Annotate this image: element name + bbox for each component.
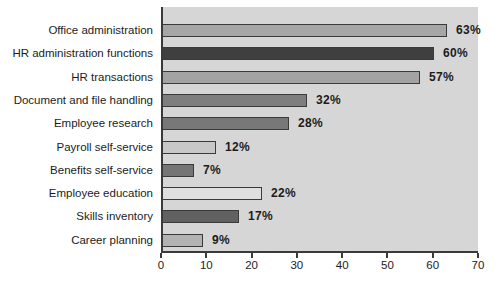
x-axis-tick-label: 60	[426, 259, 439, 271]
x-axis-tick	[341, 253, 343, 258]
bar	[162, 164, 194, 177]
x-axis-tick-label: 0	[158, 259, 164, 271]
x-axis-tick-label: 10	[200, 259, 213, 271]
category-label: Employee education	[0, 186, 153, 201]
bar-chart: Office administration63%HR administratio…	[0, 0, 498, 289]
bar	[162, 47, 434, 60]
value-label: 60%	[443, 46, 468, 61]
bar	[162, 117, 289, 130]
bar	[162, 94, 307, 107]
value-label: 28%	[298, 116, 323, 131]
value-label: 9%	[212, 233, 230, 248]
bar	[162, 234, 203, 247]
bar	[162, 187, 262, 200]
category-label: Employee research	[0, 116, 153, 131]
category-label: Skills inventory	[0, 209, 153, 224]
value-label: 7%	[203, 163, 221, 178]
value-label: 12%	[225, 140, 250, 155]
category-label: Document and file handling	[0, 93, 153, 108]
x-axis-tick	[296, 253, 298, 258]
value-label: 63%	[456, 23, 481, 38]
x-axis-tick	[205, 253, 207, 258]
x-axis-tick-label: 30	[290, 259, 303, 271]
x-axis-tick	[251, 253, 253, 258]
category-label: Payroll self-service	[0, 140, 153, 155]
category-label: Career planning	[0, 233, 153, 248]
value-label: 32%	[316, 93, 341, 108]
x-axis-tick	[432, 253, 434, 258]
x-axis-tick	[386, 253, 388, 258]
x-axis-tick-label: 70	[472, 259, 485, 271]
bar	[162, 24, 447, 37]
category-label: HR transactions	[0, 70, 153, 85]
bar	[162, 71, 420, 84]
x-axis-tick-label: 40	[336, 259, 349, 271]
value-label: 22%	[271, 186, 296, 201]
x-axis-tick-label: 50	[381, 259, 394, 271]
bar	[162, 141, 216, 154]
x-axis-tick	[160, 253, 162, 258]
category-label: Office administration	[0, 23, 153, 38]
x-axis-tick	[477, 253, 479, 258]
value-label: 17%	[248, 209, 273, 224]
category-label: Benefits self-service	[0, 163, 153, 178]
category-label: HR administration functions	[0, 46, 153, 61]
x-axis-tick-label: 20	[245, 259, 258, 271]
bar	[162, 210, 239, 223]
value-label: 57%	[429, 70, 454, 85]
